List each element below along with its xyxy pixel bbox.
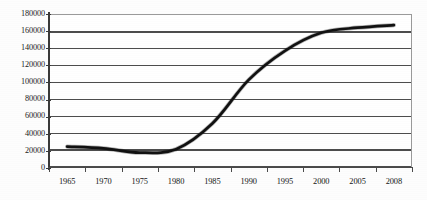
y-axis-tick-label: 180000 (1, 10, 45, 18)
x-axis-tick-mark (412, 168, 413, 172)
x-axis-tick-mark (231, 168, 232, 172)
x-axis-tick-label: 1985 (204, 177, 220, 186)
y-axis-tick-label: 20000 (1, 147, 45, 155)
gridlines (50, 15, 411, 167)
y-axis-tick-mark (46, 168, 51, 169)
x-axis-tick-label: 2008 (386, 177, 402, 186)
y-axis-tick-label: 0 (1, 164, 45, 172)
y-axis-tick-mark (46, 31, 51, 32)
plot-area (49, 14, 412, 168)
x-axis-tick-label: 1995 (277, 177, 293, 186)
x-axis-tick-mark (194, 168, 195, 172)
x-axis-tick-label: 1980 (168, 177, 184, 186)
y-axis-labels: 1800001600001400001200001000008000060000… (0, 0, 45, 200)
line-chart: 1800001600001400001200001000008000060000… (0, 0, 427, 200)
x-axis-tick-mark (303, 168, 304, 172)
x-axis-tick-mark (158, 168, 159, 172)
y-axis-tick-label: 40000 (1, 130, 45, 138)
y-axis-line (48, 12, 50, 170)
y-axis-tick-mark (46, 14, 51, 15)
y-axis-tick-label: 120000 (1, 61, 45, 69)
x-axis-tick-label: 2000 (313, 177, 329, 186)
x-axis-tick-label: 1975 (132, 177, 148, 186)
y-axis-tick-mark (46, 48, 51, 49)
x-axis-tick-mark (122, 168, 123, 172)
y-axis-tick-label: 160000 (1, 27, 45, 35)
y-axis-tick-label: 80000 (1, 95, 45, 103)
x-axis-tick-mark (376, 168, 377, 172)
y-axis-tick-mark (46, 65, 51, 66)
x-axis-tick-mark (339, 168, 340, 172)
x-axis-tick-mark (267, 168, 268, 172)
x-axis-tick-label: 1965 (59, 177, 75, 186)
y-axis-tick-mark (46, 82, 51, 83)
y-axis-tick-mark (46, 117, 51, 118)
x-axis-tick-label: 1990 (240, 177, 256, 186)
y-axis-tick-mark (46, 100, 51, 101)
x-axis-tick-mark (85, 168, 86, 172)
y-axis-tick-mark (46, 151, 51, 152)
x-axis-tick-label: 1970 (95, 177, 111, 186)
y-axis-tick-label: 100000 (1, 78, 45, 86)
y-axis-tick-mark (46, 134, 51, 135)
y-axis-tick-label: 60000 (1, 112, 45, 120)
y-axis-tick-label: 140000 (1, 44, 45, 52)
x-axis-tick-label: 2005 (349, 177, 365, 186)
